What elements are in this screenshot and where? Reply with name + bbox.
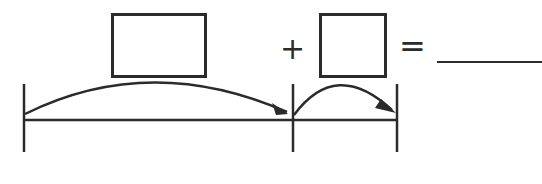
arrowhead-2-icon (375, 99, 396, 113)
number-line (0, 0, 542, 184)
jump-arc-1-icon (25, 82, 287, 114)
arrowhead-1-icon (272, 103, 288, 115)
jump-arc-2-icon (294, 85, 392, 115)
